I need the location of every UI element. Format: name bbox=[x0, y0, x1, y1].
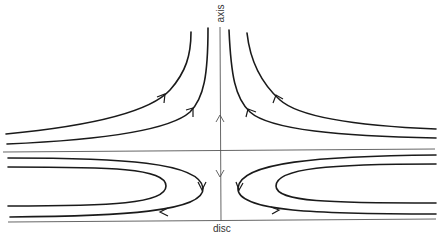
axis-line bbox=[220, 27, 221, 221]
axis-down-arrow-icon bbox=[216, 170, 224, 177]
axis-label: axis bbox=[215, 5, 226, 23]
streamline-upper-right-outer bbox=[247, 33, 436, 129]
streamline-lower-right-inner-loop bbox=[276, 164, 436, 203]
streamline-lower-left-inner-loop bbox=[8, 167, 166, 206]
streamline-upper-left-inner bbox=[7, 28, 208, 144]
flow-diagram bbox=[0, 0, 445, 237]
streamline-upper-left-outer bbox=[6, 32, 191, 134]
disc-label: disc bbox=[213, 223, 231, 234]
streamline-upper-right-inner bbox=[229, 30, 436, 138]
midplane-line bbox=[3, 149, 435, 152]
disc-line bbox=[8, 219, 436, 222]
axis-up-arrow-icon bbox=[216, 115, 224, 122]
